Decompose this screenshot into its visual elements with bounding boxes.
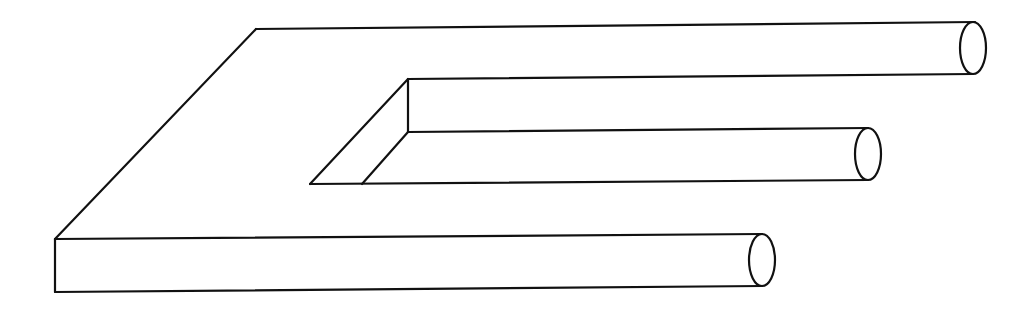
top-prong-end-cap <box>960 22 986 74</box>
outer-left-diagonal <box>55 29 256 239</box>
outer-front-bottom-edge <box>55 286 762 292</box>
trident-drawing <box>0 0 1036 316</box>
notch-floor-edge <box>310 180 868 184</box>
middle-prong-end-cap <box>855 128 881 180</box>
impossible-trident-figure: Impossible trident (blivet) optical illu… <box>0 0 1036 316</box>
outer-back-edge <box>256 22 975 29</box>
notch-middle-edge <box>408 128 868 132</box>
outer-front-top-edge <box>55 234 762 239</box>
notch-outer-diagonal <box>310 79 408 184</box>
notch-upper-edge <box>408 74 973 79</box>
bottom-prong-end-cap <box>749 234 775 286</box>
notch-inner-diagonal <box>362 132 408 184</box>
